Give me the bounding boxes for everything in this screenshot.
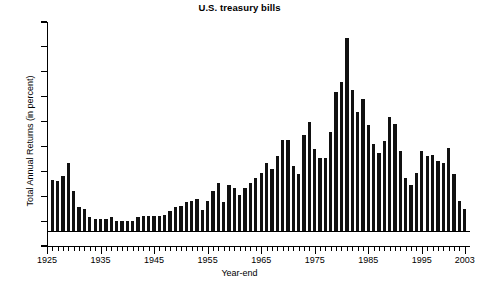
bar — [233, 188, 236, 231]
x-tick-minor — [84, 247, 85, 251]
bar — [356, 112, 359, 231]
x-tick-minor — [358, 247, 359, 251]
bar — [436, 161, 439, 230]
bar — [426, 156, 429, 230]
x-tick-minor — [240, 247, 241, 251]
bar — [104, 219, 107, 231]
bar — [99, 219, 102, 231]
bar — [260, 173, 263, 231]
x-tick-minor — [427, 247, 428, 251]
x-tick-minor — [170, 247, 171, 251]
x-tick-minor — [336, 247, 337, 251]
x-tick-minor — [63, 247, 64, 251]
x-tick-minor — [459, 247, 460, 251]
x-tick-label: 1965 — [241, 255, 281, 265]
bar — [351, 90, 354, 230]
x-tick-minor — [293, 247, 294, 251]
x-tick-minor — [433, 247, 434, 251]
x-tick-major — [422, 247, 423, 254]
bar — [463, 209, 466, 231]
x-tick-minor — [245, 247, 246, 251]
x-tick-major — [368, 247, 369, 254]
x-tick-minor — [176, 247, 177, 251]
x-tick-minor — [74, 247, 75, 251]
x-tick-minor — [320, 247, 321, 251]
x-tick-major — [261, 247, 262, 254]
bar — [292, 166, 295, 230]
bar — [110, 217, 113, 230]
x-tick-minor — [250, 247, 251, 251]
bar — [51, 180, 54, 230]
x-tick-minor — [256, 247, 257, 251]
x-tick-minor — [149, 247, 150, 251]
bar — [94, 219, 97, 231]
bar — [308, 122, 311, 231]
bar — [367, 125, 370, 230]
x-tick-label: 1995 — [402, 255, 442, 265]
bar — [136, 217, 139, 230]
x-tick-minor — [138, 247, 139, 251]
x-tick-major — [101, 247, 102, 254]
x-tick-minor — [299, 247, 300, 251]
bar — [270, 169, 273, 231]
x-tick-minor — [159, 247, 160, 251]
x-tick-minor — [127, 247, 128, 251]
x-tick-minor — [406, 247, 407, 251]
bar — [388, 117, 391, 231]
bar — [431, 155, 434, 230]
bar — [399, 151, 402, 230]
x-tick-minor — [68, 247, 69, 251]
x-tick-minor — [309, 247, 310, 251]
bar — [393, 124, 396, 230]
bar — [179, 206, 182, 230]
bar — [174, 207, 177, 230]
bar — [185, 202, 188, 230]
bar — [254, 178, 257, 231]
bar — [286, 140, 289, 230]
x-tick-minor — [218, 247, 219, 251]
bar — [83, 209, 86, 231]
bar — [163, 215, 166, 231]
x-tick-minor — [197, 247, 198, 251]
bar — [313, 149, 316, 231]
x-tick-label: 1935 — [81, 255, 121, 265]
bar — [340, 82, 343, 231]
bar — [372, 144, 375, 231]
x-tick-label: 2003 — [445, 255, 479, 265]
bar — [458, 201, 461, 230]
bar — [72, 191, 75, 230]
bar — [452, 174, 455, 231]
x-tick-major — [47, 247, 48, 254]
x-tick-minor — [186, 247, 187, 251]
bar — [77, 207, 80, 230]
x-tick-label: 1985 — [348, 255, 388, 265]
bar — [147, 216, 150, 230]
bar — [168, 211, 171, 230]
x-tick-minor — [95, 247, 96, 251]
x-tick-minor — [454, 247, 455, 251]
x-tick-minor — [416, 247, 417, 251]
x-tick-minor — [165, 247, 166, 251]
bar — [195, 199, 198, 231]
x-tick-minor — [143, 247, 144, 251]
bar — [329, 132, 332, 231]
bar — [302, 135, 305, 230]
x-tick-minor — [443, 247, 444, 251]
bar — [324, 158, 327, 231]
x-tick-minor — [106, 247, 107, 251]
bar — [206, 201, 209, 230]
bar — [131, 221, 134, 230]
bar — [404, 178, 407, 231]
bar — [318, 158, 321, 231]
x-tick-minor — [111, 247, 112, 251]
x-tick-minor — [202, 247, 203, 251]
bar — [377, 153, 380, 231]
bar — [227, 185, 230, 230]
x-tick-label: 1925 — [27, 255, 67, 265]
x-tick-minor — [384, 247, 385, 251]
bar — [334, 92, 337, 231]
x-tick-minor — [331, 247, 332, 251]
bar — [442, 163, 445, 231]
bar — [115, 221, 118, 230]
bar — [415, 173, 418, 231]
